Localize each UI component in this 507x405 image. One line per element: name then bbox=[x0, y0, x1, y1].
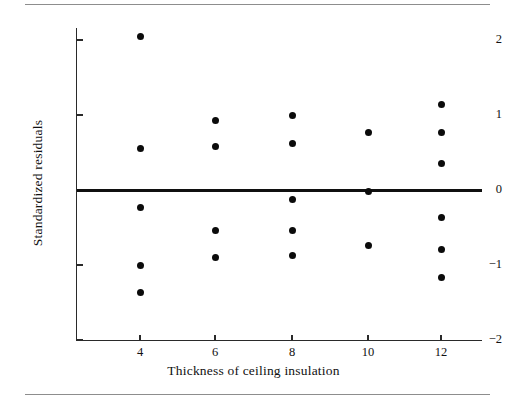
data-point bbox=[365, 188, 372, 195]
x-tick bbox=[440, 335, 441, 341]
x-tick bbox=[214, 335, 215, 341]
data-point bbox=[212, 117, 219, 124]
data-point bbox=[137, 289, 144, 296]
data-point bbox=[289, 112, 296, 119]
data-point bbox=[137, 204, 144, 211]
x-tick-label: 8 bbox=[272, 346, 312, 359]
data-point bbox=[289, 227, 296, 234]
figure: 210−1−2 4681012 Thickness of ceiling ins… bbox=[0, 0, 507, 405]
y-tick bbox=[76, 114, 83, 115]
y-tick-label: −1 bbox=[439, 258, 507, 271]
data-point bbox=[289, 196, 296, 203]
data-point bbox=[365, 129, 372, 136]
y-axis-line bbox=[76, 28, 77, 341]
data-point bbox=[137, 145, 144, 152]
y-tick bbox=[76, 339, 83, 340]
data-point bbox=[137, 33, 144, 40]
zero-reference-line bbox=[77, 189, 482, 192]
data-point bbox=[438, 274, 445, 281]
data-point bbox=[438, 246, 445, 253]
data-point bbox=[438, 160, 445, 167]
y-tick-label: 2 bbox=[439, 33, 507, 46]
data-point bbox=[438, 129, 445, 136]
scatter-plot: 210−1−2 4681012 Thickness of ceiling ins… bbox=[0, 0, 507, 405]
data-point bbox=[212, 227, 219, 234]
data-point bbox=[438, 214, 445, 221]
x-tick bbox=[291, 335, 292, 341]
x-tick bbox=[139, 335, 140, 341]
x-tick-label: 4 bbox=[120, 346, 160, 359]
data-point bbox=[212, 254, 219, 261]
data-point bbox=[438, 101, 445, 108]
x-axis-line bbox=[76, 340, 482, 341]
y-tick-label: 1 bbox=[439, 108, 507, 121]
data-point bbox=[289, 140, 296, 147]
x-tick-label: 10 bbox=[348, 346, 388, 359]
y-tick bbox=[76, 39, 83, 40]
y-tick-label: −2 bbox=[439, 333, 507, 346]
y-axis-title: Standardized residuals bbox=[30, 73, 46, 293]
data-point bbox=[212, 143, 219, 150]
x-axis-title: Thickness of ceiling insulation bbox=[0, 363, 507, 379]
data-point bbox=[137, 262, 144, 269]
data-point bbox=[289, 252, 296, 259]
x-tick-label: 12 bbox=[421, 346, 461, 359]
y-tick bbox=[76, 264, 83, 265]
x-tick-label: 6 bbox=[195, 346, 235, 359]
x-tick bbox=[367, 335, 368, 341]
data-point bbox=[365, 242, 372, 249]
